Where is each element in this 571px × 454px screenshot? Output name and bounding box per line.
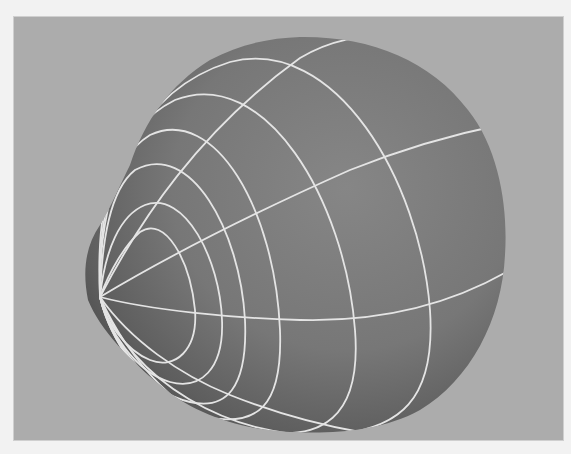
page xyxy=(0,0,571,454)
3d-viewport[interactable] xyxy=(14,17,563,440)
viewport-canvas[interactable] xyxy=(14,17,563,440)
